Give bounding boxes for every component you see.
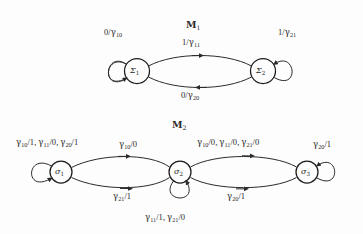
label-self-loop-sigma1: γ10/1, γ11/0, γ20/1 (16, 138, 78, 148)
machine-title-M2-glyph: M (172, 119, 183, 130)
edge-sigma2-to-sigma1 (72, 178, 170, 188)
edge-self-loop-Sigma2 (274, 61, 292, 81)
label-sigma2-to-sigma3: γ10/0, γ11/0, γ21/0 (197, 138, 259, 148)
state-label-sigma1: σ1 (55, 168, 64, 177)
label-self-loop-Sigma2: 1/γ21 (278, 28, 296, 38)
label-self-loop-Sigma1: 0/γ10 (104, 28, 122, 38)
edge-self-loop-Sigma1 (108, 61, 126, 81)
machine-title-M1: M1 (186, 20, 200, 31)
label-sigma1-to-sigma2: γ10/0 (119, 140, 137, 150)
label-Sigma2-to-Sigma1: 0/γ20 (181, 91, 199, 101)
edge-sigma1-to-sigma2 (72, 157, 170, 168)
state-label-sigma3: σ3 (301, 168, 310, 177)
edge-self-loop-sigma3 (317, 162, 335, 181)
edge-sigma3-to-sigma2 (191, 178, 297, 188)
state-label-Sigma2: Σ2 (256, 67, 265, 76)
edge-sigma2-to-sigma3 (191, 157, 297, 168)
label-self-loop-sigma2: γ11/1, γ21/0 (145, 213, 185, 223)
state-label-Sigma1: Σ1 (130, 67, 139, 76)
diagram-vector-layer (0, 0, 363, 234)
label-sigma3-to-sigma2: γ20/1 (227, 192, 245, 202)
figure-canvas: M1 0/γ10 1/γ11 0/γ20 1/γ21 Σ1 Σ2 M2 γ10/… (0, 0, 363, 234)
edge-Sigma2-to-Sigma1 (149, 77, 252, 88)
state-label-sigma2: σ2 (174, 168, 183, 177)
label-sigma2-to-sigma1: γ21/1 (113, 192, 131, 202)
edge-Sigma1-to-Sigma2 (149, 56, 252, 67)
machine-title-M1-sub: 1 (197, 24, 201, 31)
machine-title-M1-glyph: M (186, 19, 197, 30)
label-self-loop-sigma3: γ20/1 (313, 140, 331, 150)
edge-self-loop-sigma1 (32, 163, 52, 182)
label-Sigma1-to-Sigma2: 1/γ11 (182, 38, 200, 48)
machine-title-M2-sub: 2 (183, 124, 187, 131)
machine-title-M2: M2 (172, 120, 186, 131)
